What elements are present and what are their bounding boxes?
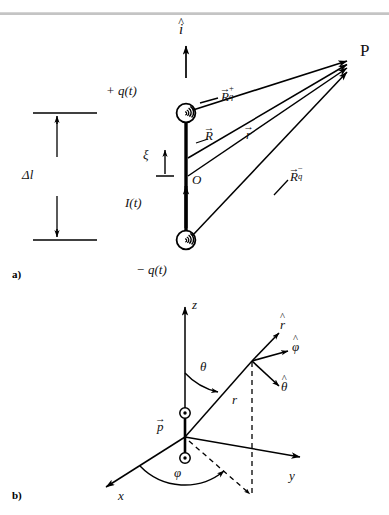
figure-vector-layer — [0, 0, 389, 515]
xi-label: ξ — [143, 148, 149, 161]
dipole-moment-label: → p — [157, 420, 164, 433]
y-axis-line — [185, 437, 300, 457]
r-hat-label: ^ r — [280, 318, 285, 331]
figure-root: ^ i + q(t) − q(t) I(t) Δl ξ O P → R +q →… — [0, 0, 389, 515]
projection-dashed-lines — [189, 362, 252, 496]
origin-label: O — [192, 173, 201, 186]
top-charge-coil — [177, 104, 196, 123]
radius-r-label: r — [232, 393, 237, 406]
vector-r-label: → r — [246, 128, 251, 141]
R-minus-subscript: q — [298, 172, 302, 181]
position-vectors-to-P — [188, 61, 347, 236]
bottom-charge-coil — [177, 231, 196, 250]
negative-charge-label: − q(t) — [136, 263, 167, 276]
page-top-rule — [0, 13, 389, 15]
positive-charge-label: + q(t) — [106, 84, 137, 97]
z-axis-label: z — [192, 298, 197, 311]
vector-label-leaders — [196, 98, 288, 195]
phi-angle-label: φ — [174, 466, 181, 479]
field-point-P-label: P — [360, 42, 369, 59]
unit-vector-i-label: ^ i — [179, 22, 183, 37]
x-axis-label: x — [118, 489, 124, 502]
panel-b-tag: b) — [12, 489, 22, 501]
phi-hat-label: ^ φ — [292, 340, 299, 353]
vector-R-q-plus-label: → R +q — [221, 88, 237, 103]
theta-hat-label: ^ θ — [281, 380, 287, 393]
delta-l-dimension — [33, 113, 97, 240]
vector-R-label: → R — [205, 129, 213, 142]
radial-line-r — [185, 361, 252, 437]
vector-R-q-minus-label: → R −q — [290, 168, 306, 183]
xi-coordinate-indicator — [156, 150, 174, 176]
theta-angle-label: θ — [200, 360, 206, 373]
R-plus-subscript: q — [229, 92, 233, 101]
y-axis-label: y — [289, 469, 295, 482]
delta-l-label: Δl — [22, 168, 33, 181]
dipole-moment-stem — [180, 408, 190, 463]
panel-a-tag: a) — [12, 268, 21, 280]
phi-angle-arc — [140, 466, 224, 485]
theta-angle-arc — [185, 373, 218, 392]
current-label: I(t) — [125, 196, 142, 209]
